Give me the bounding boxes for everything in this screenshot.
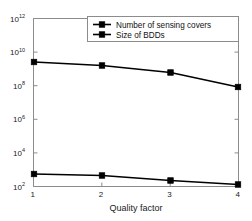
y-tick-label: 102 [13,181,25,192]
data-point-marker [31,59,37,65]
legend-marker-square [99,32,105,38]
legend-marker-square [99,22,105,28]
y-tick-label: 106 [13,114,25,125]
data-point-marker [168,70,174,76]
y-tick-label: 1012 [10,13,25,24]
data-point-marker [235,84,241,90]
axis-frame [34,19,239,187]
chart-legend[interactable]: Number of sensing covers Size of BDDs [88,17,239,42]
y-tick-label: 108 [13,80,25,91]
series-size-of-bdds [31,171,241,187]
x-tick-label: 4 [236,190,241,199]
legend-label: Number of sensing covers [116,21,211,30]
data-point-marker [168,178,174,184]
y-axis-tick-labels: 1012 1010 108 106 104 102 [10,13,25,192]
series-number-of-sensing-covers [31,59,241,90]
plot-axes [34,19,239,187]
data-point-marker [99,63,105,69]
y-tick-label: 104 [13,147,25,158]
y-axis-ticks [34,19,239,187]
x-tick-label: 2 [99,190,104,199]
legend-label: Size of BDDs [116,31,165,40]
series-2-line [34,174,238,185]
figure-canvas: 1012 1010 108 106 104 102 [0,0,252,221]
x-axis-tick-labels: 1 2 3 4 [31,190,241,199]
data-point-marker [235,182,241,188]
x-axis-title: Quality factor [109,203,162,213]
x-axis-ticks [34,19,239,187]
data-point-marker [99,173,105,179]
data-point-marker [31,171,37,177]
x-tick-label: 3 [167,190,172,199]
series-1-line [34,62,238,87]
chart-svg: 1012 1010 108 106 104 102 [0,0,252,221]
x-tick-label: 1 [31,190,36,199]
y-tick-label: 1010 [10,47,25,58]
